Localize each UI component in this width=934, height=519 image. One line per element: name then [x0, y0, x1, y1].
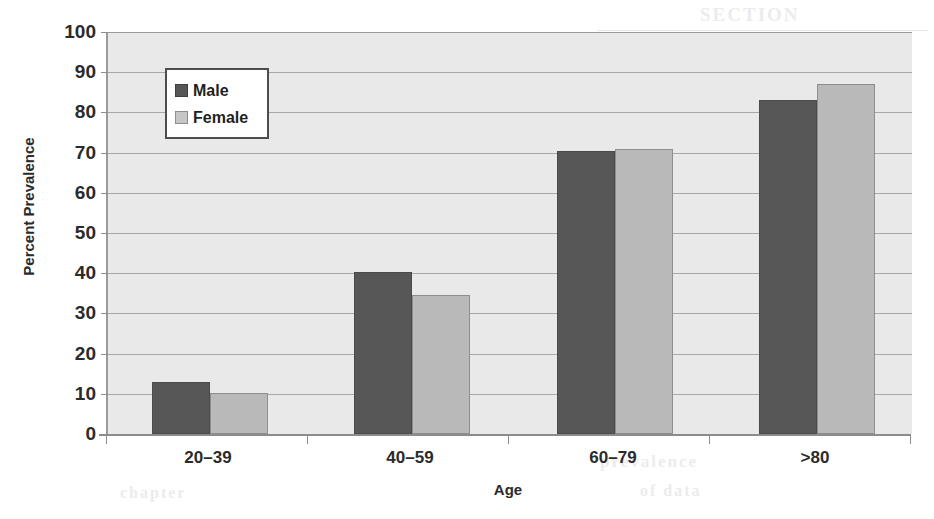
x-axis-tickmark	[508, 436, 509, 444]
y-axis-tickmark	[101, 394, 108, 395]
x-axis-tick-label: 60–79	[513, 448, 713, 468]
x-axis-title: Age	[106, 481, 910, 498]
y-axis-tickmark	[101, 72, 108, 73]
bar-male-4	[759, 100, 817, 434]
y-axis-tick-label: 80	[52, 102, 96, 121]
y-axis-tickmark	[101, 112, 108, 113]
y-axis-tick-label: 50	[52, 223, 96, 242]
bar-female-4	[817, 84, 875, 434]
x-axis-line	[99, 434, 911, 436]
x-axis-tick-label: 40–59	[310, 448, 510, 468]
y-axis-tick-label: 40	[52, 263, 96, 282]
y-axis-tick-label: 30	[52, 303, 96, 322]
x-axis-tick-label: >80	[715, 448, 915, 468]
legend-swatch-female-icon	[175, 111, 188, 124]
y-axis-tick-label: 90	[52, 62, 96, 81]
legend-item-male: Male	[175, 77, 267, 104]
y-axis-tickmark	[101, 153, 108, 154]
chart-legend: MaleFemale	[165, 68, 269, 139]
y-axis-tick-label: 10	[52, 384, 96, 403]
y-axis-title: Percent Prevalence	[20, 117, 37, 297]
bar-female-2	[412, 295, 470, 434]
legend-item-female: Female	[175, 104, 267, 131]
bar-chart: SECTION Figure prevalence of data chapte…	[0, 0, 934, 519]
x-axis-tickmark	[910, 436, 911, 444]
legend-swatch-male-icon	[175, 84, 188, 97]
y-axis-tickmark	[101, 313, 108, 314]
scan-artifact-top: SECTION	[700, 4, 800, 26]
y-axis-tickmark	[101, 354, 108, 355]
scan-artifact-rule	[598, 30, 928, 31]
y-axis-tick-labels: 1009080706050403020100	[44, 0, 96, 519]
x-axis-tickmark	[307, 436, 308, 444]
y-axis-tickmark	[101, 273, 108, 274]
bar-female-1	[210, 393, 268, 434]
bar-male-1	[152, 382, 210, 434]
y-axis-tickmark	[101, 233, 108, 234]
y-axis-tick-label: 70	[52, 143, 96, 162]
legend-label: Male	[193, 83, 229, 99]
y-axis-tick-label: 20	[52, 344, 96, 363]
y-axis-tick-label: 0	[52, 424, 96, 443]
legend-label: Female	[193, 110, 248, 126]
bar-female-3	[615, 149, 673, 434]
x-axis-tick-label: 20–39	[108, 448, 308, 468]
bar-male-3	[557, 151, 615, 434]
gridline	[108, 32, 912, 33]
y-axis-tick-label: 60	[52, 183, 96, 202]
y-axis-tickmark	[101, 193, 108, 194]
y-axis-tickmark	[101, 32, 108, 33]
bar-male-2	[354, 272, 412, 434]
x-axis-tickmark	[106, 436, 107, 444]
x-axis-tickmark	[709, 436, 710, 444]
y-axis-tick-label: 100	[52, 22, 96, 41]
